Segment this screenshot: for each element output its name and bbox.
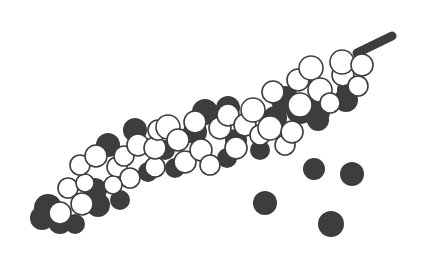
light-berry bbox=[200, 155, 220, 175]
light-berry bbox=[241, 98, 265, 122]
light-berry bbox=[71, 193, 93, 215]
light-berry bbox=[167, 129, 189, 151]
light-berry bbox=[262, 81, 284, 103]
light-berry bbox=[145, 157, 165, 177]
loose-peppercorn bbox=[340, 162, 364, 186]
pepper-illustration bbox=[0, 0, 431, 259]
light-berry bbox=[288, 93, 312, 117]
light-berry bbox=[85, 145, 107, 167]
light-berry bbox=[76, 174, 94, 192]
light-berry bbox=[225, 137, 247, 159]
light-berry bbox=[281, 121, 303, 143]
light-berry bbox=[184, 111, 206, 133]
loose-peppercorn bbox=[253, 191, 277, 215]
light-berry bbox=[49, 202, 71, 224]
loose-peppercorn bbox=[303, 158, 325, 180]
loose-peppercorn bbox=[318, 211, 344, 237]
pepper-spike-drawing bbox=[0, 0, 431, 259]
light-berry bbox=[299, 56, 323, 80]
light-berry bbox=[104, 176, 122, 194]
pepper-stem bbox=[357, 36, 392, 53]
light-berry bbox=[120, 168, 140, 188]
light-berry bbox=[348, 76, 368, 96]
light-berry bbox=[258, 116, 282, 140]
light-berry bbox=[351, 54, 373, 76]
light-berry bbox=[320, 93, 340, 113]
stem-line bbox=[357, 36, 392, 53]
loose-peppercorns bbox=[253, 158, 364, 237]
light-berry bbox=[330, 50, 354, 74]
